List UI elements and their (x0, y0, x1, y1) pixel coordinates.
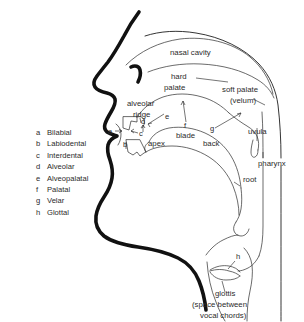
marker-d: d (141, 117, 145, 126)
label-glottis-line1: glottis (215, 289, 235, 298)
label-alveolar-ridge-line1: alveolar (127, 99, 155, 108)
label-back: back (203, 139, 220, 148)
legend-item-glottal: h Glottal (36, 207, 136, 218)
label-hard-palate-line1: hard (171, 72, 187, 81)
pharynx-back-wall-lower (259, 166, 263, 256)
label-soft-palate-line1: soft palate (222, 85, 258, 94)
label-nasal-cavity: nasal cavity (170, 48, 211, 57)
legend-label-labiodental: Labiodental (47, 138, 86, 149)
vocal-folds-upper (210, 266, 240, 272)
marker-e: e (165, 112, 169, 121)
legend-label-alveopalatal: Alveopalatal (47, 173, 88, 184)
label-root: root (243, 175, 257, 184)
legend-label-bilabial: Bilabial (47, 127, 71, 138)
place-of-articulation-legend: a Bilabial b Labiodental c Interdental d… (36, 127, 136, 218)
legend-key-h: h (36, 207, 47, 218)
legend-key-b: b (36, 138, 47, 149)
legend-label-velar: Velar (47, 195, 64, 206)
label-blade: blade (176, 131, 195, 140)
legend-key-a: a (36, 127, 47, 138)
legend-key-c: c (36, 150, 47, 161)
marker-h: h (236, 252, 240, 261)
marker-f: f (184, 121, 187, 130)
label-apex: apex (148, 139, 165, 148)
vocal-tract-figure: nasal cavity hard palate soft palate (ve… (0, 0, 304, 322)
label-glottis-line2: (space between (192, 300, 247, 309)
legend-label-alveolar: Alveolar (47, 161, 74, 172)
epiglottis-curve (234, 222, 249, 236)
vocal-folds-middle (210, 270, 240, 277)
legend-item-bilabial: a Bilabial (36, 127, 136, 138)
legend-key-e: e (36, 173, 47, 184)
legend-item-palatal: f Palatal (36, 184, 136, 195)
legend-item-alveolar: d Alveolar (36, 161, 136, 172)
nostril-hook (131, 66, 140, 82)
legend-label-palatal: Palatal (47, 184, 70, 195)
tongue-lower-surface (146, 146, 239, 215)
marker-arrow-e-head (148, 123, 152, 127)
marker-arrow-e (148, 114, 164, 124)
leader-hard-palate (196, 78, 228, 82)
tongue-root-curve (236, 188, 242, 222)
legend-label-interdental: Interdental (47, 150, 83, 161)
label-glottis-line3: vocal chords) (200, 311, 247, 320)
leader-root (234, 182, 240, 186)
label-soft-palate-line2: (velum) (230, 96, 256, 105)
larynx-back-wall (238, 256, 259, 271)
legend-key-g: g (36, 195, 47, 206)
legend-item-interdental: c Interdental (36, 150, 136, 161)
marker-g: g (210, 124, 214, 133)
uvula-shape (251, 140, 258, 157)
legend-key-d: d (36, 161, 47, 172)
larynx-front-wall (206, 235, 238, 255)
legend-item-labiodental: b Labiodental (36, 138, 136, 149)
legend-item-alveopalatal: e Alveopalatal (36, 173, 136, 184)
legend-key-f: f (36, 184, 47, 195)
legend-item-velar: g Velar (36, 195, 136, 206)
label-hard-palate-line2: palate (164, 83, 185, 92)
legend-label-glottal: Glottal (47, 207, 69, 218)
marker-c: c (139, 129, 143, 138)
marker-arrow-g (215, 113, 241, 128)
label-pharynx: pharynx (258, 159, 286, 168)
label-uvula: uvula (248, 127, 267, 136)
